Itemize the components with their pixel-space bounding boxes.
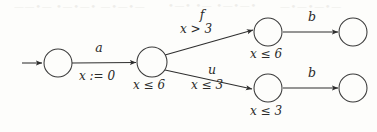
- svg-text:•—• •— •—•—•: •—• •— •—•—•: [168, 0, 257, 11]
- transition-guard-x-le-3: x ≤ 3: [191, 78, 223, 92]
- transition-label-a: a: [95, 40, 102, 55]
- invariant-label-s1: x ≤ 6: [133, 78, 165, 92]
- state-node-s5[interactable]: [339, 74, 367, 102]
- transition-label-b-bottom: b: [308, 65, 316, 80]
- transition-guard-x-gt-3: x > 3: [180, 22, 212, 36]
- state-node-s4[interactable]: [339, 18, 367, 46]
- state-node-s1[interactable]: [137, 47, 167, 77]
- state-node-s2[interactable]: [254, 18, 282, 46]
- automaton-canvas: ——•— •—•—• —•—•— •—• •— •—•—• —•—•—•— a …: [0, 0, 377, 132]
- state-node-s3[interactable]: [254, 74, 282, 102]
- svg-text:——•— •—•—• —•—•—: ——•— •—•—• —•—•—: [14, 1, 145, 12]
- scan-bleed-artifact: ——•— •—•—• —•—•— •—• •— •—•—• —•—•—•—: [14, 0, 342, 12]
- state-node-s0[interactable]: [44, 49, 72, 77]
- invariant-label-s2: x ≤ 6: [250, 47, 282, 61]
- transition-label-b-top: b: [308, 9, 316, 24]
- transition-reset-x-assign-0: x := 0: [79, 69, 115, 83]
- transition-s0-s1: [72, 63, 136, 64]
- transition-label-u: u: [208, 62, 216, 77]
- timed-automaton-figure: ——•— •—•—• —•—•— •—• •— •—•—• —•—•—•— a …: [0, 0, 377, 132]
- invariant-label-s3: x ≤ 3: [250, 104, 282, 118]
